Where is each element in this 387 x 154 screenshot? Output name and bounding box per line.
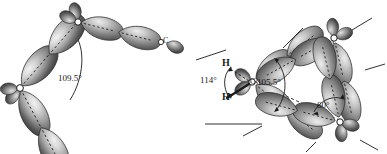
carbon-label-ring-left: C	[250, 78, 255, 86]
hydrogen-label-upper: H	[222, 58, 230, 68]
carbon-nucleus-ring-bottomright	[337, 119, 343, 125]
right-panel-group	[196, 18, 385, 152]
carbon-nucleus-lower-left	[17, 85, 24, 92]
bond-lower-down	[10, 85, 76, 154]
bond-middle-to-right	[78, 12, 163, 53]
tetrahedral-angle-label: 109.5°	[58, 74, 82, 83]
hydrogen-label-lower: H	[222, 92, 230, 102]
hch-angle-label: 114°	[200, 76, 217, 85]
carbon-nucleus-middle	[75, 19, 81, 25]
internuclear-angle-label: 60°	[317, 101, 330, 110]
carbon-label-right-end: C	[163, 37, 168, 45]
left-panel-group	[0, 1, 185, 154]
orbital-angle-label: 105.5°	[257, 78, 281, 87]
carbon-nucleus-ring-topright	[331, 35, 337, 41]
figure-canvas: 109.5° C H H 114° C 105.5° 60°	[0, 0, 387, 154]
